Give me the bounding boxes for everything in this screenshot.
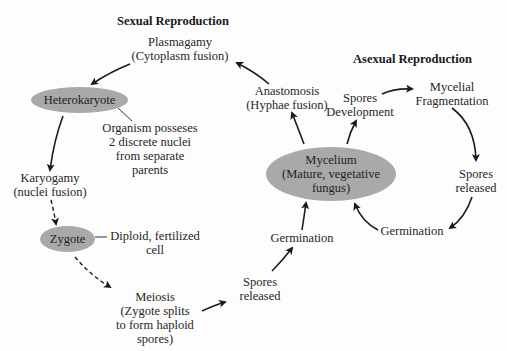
arrow-karyogamy-to-zygote	[51, 200, 56, 224]
node-spores-released-asexual: Spores released	[447, 167, 505, 195]
mycelium-text: Mycelium (Mature, vegetative fungus)	[282, 153, 380, 195]
spores-released-asexual-line2: released	[447, 181, 505, 195]
arrow-fragmentation-to-spores-released	[452, 108, 476, 160]
arrow-mycelium-to-spores-development	[347, 121, 356, 144]
arrow-meiosis-to-spores-released	[202, 302, 225, 311]
zygote-note-line2: cell	[105, 243, 205, 257]
heading-sexual-reproduction: Sexual Reproduction	[117, 14, 229, 29]
mycelium-title: Mycelium	[282, 153, 380, 167]
node-germination-asexual: Germination	[378, 224, 446, 238]
arrow-spores-released-to-germination-asexual	[450, 197, 472, 228]
node-germination-sexual: Germination	[262, 231, 342, 245]
node-mycelium: Mycelium (Mature, vegetative fungus)	[266, 147, 396, 201]
plasmagamy-title: Plasmagamy	[125, 35, 235, 49]
note-heterokaryote: Organism posseses 2 discrete nuclei from…	[100, 121, 200, 177]
spores-released-asexual-line1: Spores	[447, 167, 505, 181]
plasmagamy-subtitle: (Cytoplasm fusion)	[125, 49, 235, 63]
meiosis-line4: spores)	[110, 332, 200, 346]
node-meiosis: Meiosis (Zygote splits to form haploid s…	[110, 290, 200, 346]
fungal-life-cycle-diagram: Sexual Reproduction Asexual Reproduction…	[0, 0, 507, 351]
meiosis-title: Meiosis	[110, 290, 200, 304]
node-zygote: Zygote	[40, 226, 95, 252]
spores-released-sexual-line2: released	[230, 289, 290, 303]
spores-released-sexual-line1: Spores	[230, 275, 290, 289]
mycelial-fragmentation-line2: Fragmentation	[412, 94, 492, 108]
zygote-label: Zygote	[50, 232, 85, 246]
heterokaryote-label: Heterokaryote	[44, 93, 116, 107]
arrow-germination-to-mycelium	[302, 203, 306, 230]
karyogamy-subtitle: (nuclei fusion)	[10, 185, 90, 199]
karyogamy-title: Karyogamy	[10, 171, 90, 185]
spores-development-line2: Development	[324, 105, 396, 119]
arrow-plasmagamy-to-heterokaryote	[92, 64, 130, 84]
node-plasmagamy: Plasmagamy (Cytoplasm fusion)	[125, 35, 235, 63]
node-spores-development: Spores Development	[324, 91, 396, 119]
mycelial-fragmentation-line1: Mycelial	[412, 80, 492, 94]
anastomosis-subtitle: (Hyphae fusion)	[244, 98, 330, 112]
mycelium-line2: (Mature, vegetative	[282, 167, 380, 181]
arrow-mycelium-to-anastomosis	[292, 113, 304, 144]
mycelium-line3: fungus)	[282, 181, 380, 195]
node-heterokaryote: Heterokaryote	[31, 87, 128, 113]
arrow-germination-asexual-to-mycelium	[355, 204, 378, 230]
heterokaryote-note-line1: Organism posseses	[100, 121, 200, 135]
meiosis-line2: (Zygote splits	[110, 304, 200, 318]
heterokaryote-note-line3: from separate	[100, 149, 200, 163]
arrow-spores-released-to-germination	[272, 248, 292, 271]
node-anastomosis: Anastomosis (Hyphae fusion)	[244, 84, 330, 112]
anastomosis-title: Anastomosis	[244, 84, 330, 98]
arrow-anastomosis-to-plasmagamy	[237, 63, 269, 84]
note-zygote: Diploid, fertilized cell	[105, 229, 205, 257]
heterokaryote-note-line4: parents	[100, 163, 200, 177]
node-spores-released-sexual: Spores released	[230, 275, 290, 303]
node-mycelial-fragmentation: Mycelial Fragmentation	[412, 80, 492, 108]
germination-sexual-label: Germination	[262, 231, 342, 245]
node-karyogamy: Karyogamy (nuclei fusion)	[10, 171, 90, 199]
germination-asexual-label: Germination	[378, 224, 446, 238]
heading-asexual-reproduction: Asexual Reproduction	[353, 52, 472, 67]
zygote-note-line1: Diploid, fertilized	[105, 229, 205, 243]
spores-development-line1: Spores	[324, 91, 396, 105]
arrow-heterokaryote-to-karyogamy	[50, 116, 63, 170]
connector-heterokaryote-note	[118, 108, 132, 121]
meiosis-line3: to form haploid	[110, 318, 200, 332]
heterokaryote-note-line2: 2 discrete nuclei	[100, 135, 200, 149]
arrow-zygote-to-meiosis	[75, 257, 110, 287]
